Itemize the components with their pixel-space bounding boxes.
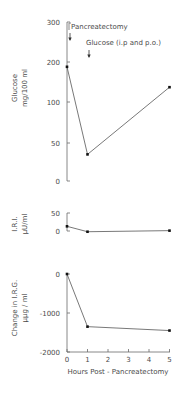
irg-ylabel-1: Change in I.R.G. [11, 280, 19, 336]
glucose-series-line [67, 67, 170, 155]
data-point [168, 86, 171, 89]
y-tick-label: 0 [56, 228, 60, 236]
chart-figure: Glucose mg/100 ml 300200100500 Pancreate… [0, 0, 182, 393]
iri-y-ticks: 500 [51, 210, 60, 236]
data-point [86, 325, 89, 328]
glucose-admin-arrow-icon [87, 50, 90, 58]
y-tick-label: 0 [56, 178, 60, 186]
irg-series-line [67, 274, 170, 331]
x-axis-title: Hours Post - Pancreatectomy [67, 368, 168, 376]
x-tick-label: 4 [147, 356, 152, 364]
annotation-pancreatectomy: Pancreatectomy [71, 23, 128, 31]
y-tick-label: -1000 [40, 310, 60, 318]
irg-series-points [66, 273, 171, 332]
glucose-y-ticks: 300200100500 [47, 19, 70, 186]
glucose-ylabel-2: mg/100 ml [21, 69, 29, 107]
data-point [66, 225, 69, 228]
iri-ylabel-2: μU/ml [21, 214, 29, 235]
data-point [168, 229, 171, 232]
data-point [168, 329, 171, 332]
glucose-ylabel-1: Glucose [11, 74, 19, 102]
iri-series-line [67, 226, 170, 231]
y-tick-label: 100 [47, 99, 60, 107]
y-tick-label: 50 [51, 210, 60, 218]
iri-y-axis [67, 213, 70, 231]
x-tick-label: 0 [65, 356, 69, 364]
y-tick-label: 0 [56, 271, 60, 279]
y-tick-label: -2000 [40, 349, 60, 357]
data-point [86, 153, 89, 156]
data-point [66, 66, 69, 69]
y-tick-label: 300 [47, 19, 60, 27]
iri-panel: I.R.I. μU/ml 500 [11, 210, 171, 236]
pancreatectomy-arrow-icon [68, 33, 71, 41]
x-tick-label: 1 [85, 356, 89, 364]
x-tick-label: 5 [167, 356, 171, 364]
x-axis-ticks: 012345 [65, 349, 172, 364]
iri-series-points [66, 225, 171, 233]
irg-ylabel-2: μμg / ml [21, 293, 29, 322]
glucose-panel: Glucose mg/100 ml 300200100500 Pancreate… [11, 19, 171, 186]
irg-panel: Change in I.R.G. μμg / ml 0-1000-2000 01… [11, 271, 172, 377]
irg-y-ticks: 0-1000-2000 [40, 271, 70, 357]
x-tick-label: 2 [106, 356, 110, 364]
data-point [86, 230, 89, 233]
glucose-series-points [66, 66, 171, 156]
y-tick-label: 200 [47, 59, 60, 67]
annotation-glucose: Glucose (i.p and p.o.) [86, 39, 161, 47]
y-tick-label: 50 [51, 140, 60, 148]
iri-ylabel-1: I.R.I. [11, 216, 19, 231]
x-tick-label: 3 [126, 356, 130, 364]
data-point [66, 273, 69, 276]
